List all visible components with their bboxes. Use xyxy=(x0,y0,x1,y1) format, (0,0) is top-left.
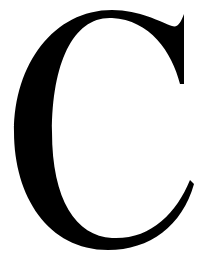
letter-c-shape xyxy=(0,0,202,261)
letter-c-glyph: C xyxy=(0,0,202,261)
